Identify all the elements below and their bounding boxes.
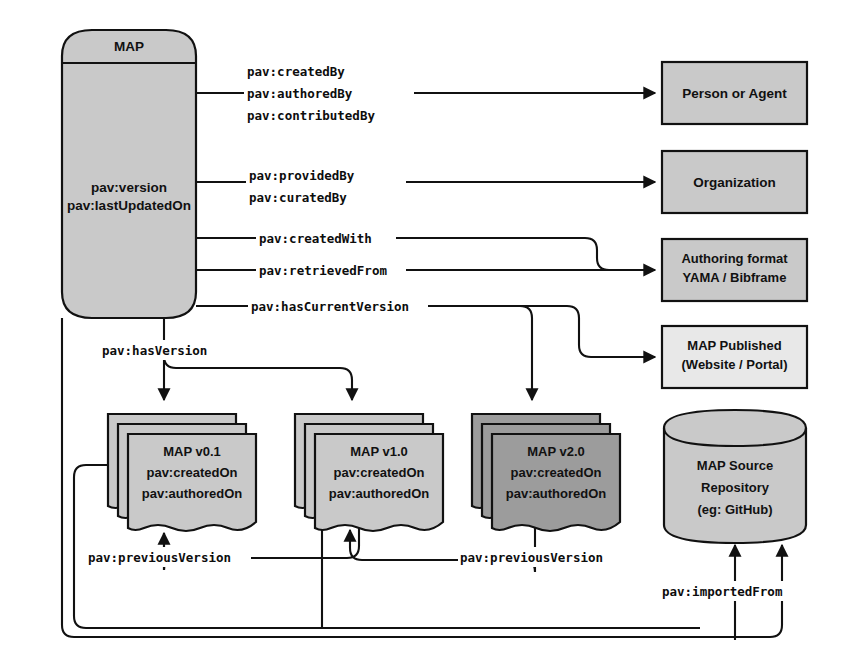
map-v0-1-line-3: pav:authoredOn (142, 486, 242, 501)
map-v0-1-line-1: MAP v0.1 (163, 444, 221, 459)
map-v1-0-line-3: pav:authoredOn (329, 486, 429, 501)
node-map-v2-0[interactable]: MAP v2.0 pav:createdOn pav:authoredOn (472, 414, 620, 531)
label-curated-by: pav:curatedBy (249, 190, 347, 205)
map-source-repository-shape (664, 410, 806, 543)
map-source-repository-line-2: Repository (701, 480, 770, 495)
label-provided-by: pav:providedBy (249, 168, 355, 183)
node-map-published[interactable]: MAP Published (Website / Portal) (662, 326, 807, 388)
label-previous-version-2: pav:previousVersion (460, 550, 603, 565)
map-node-shape (62, 30, 196, 318)
label-imported-from: pav:importedFrom (662, 584, 783, 599)
map-v2-0-line-1: MAP v2.0 (527, 444, 585, 459)
authoring-format-line-2: YAMA / Bibframe (683, 270, 787, 285)
map-node-line-2: pav:lastUpdatedOn (67, 198, 191, 213)
label-has-current-version: pav:hasCurrentVersion (251, 299, 409, 314)
node-person-or-agent[interactable]: Person or Agent (662, 62, 807, 124)
edge-has-version-branch-v1 (164, 356, 352, 400)
label-contributed-by: pav:contributedBy (247, 108, 375, 123)
node-map-v0-1[interactable]: MAP v0.1 pav:createdOn pav:authoredOn (108, 414, 256, 531)
map-published-line-1: MAP Published (687, 338, 781, 353)
authoring-format-line-1: Authoring format (681, 251, 788, 266)
label-created-with: pav:createdWith (259, 231, 372, 246)
label-has-version: pav:hasVersion (102, 343, 207, 358)
map-v2-0-line-2: pav:createdOn (510, 465, 601, 480)
map-published-line-2: (Website / Portal) (682, 357, 788, 372)
edge-has-current-version-to-v2 (430, 306, 532, 400)
node-map-source-repository[interactable]: MAP Source Repository (eg: GitHub) (664, 410, 806, 543)
map-v1-0-line-2: pav:createdOn (333, 465, 424, 480)
map-source-repository-line-1: MAP Source (697, 458, 773, 473)
label-created-by: pav:createdBy (247, 64, 345, 79)
organization-label: Organization (693, 175, 776, 190)
label-retrieved-from: pav:retrievedFrom (259, 263, 387, 278)
diagram-canvas: MAP pav:version pav:lastUpdatedOn Person… (0, 0, 845, 663)
node-map[interactable]: MAP pav:version pav:lastUpdatedOn (62, 30, 196, 318)
node-map-v1-0[interactable]: MAP v1.0 pav:createdOn pav:authoredOn (295, 414, 443, 531)
map-v1-0-line-1: MAP v1.0 (350, 444, 408, 459)
map-node-header-label: MAP (114, 39, 144, 54)
map-v0-1-line-2: pav:createdOn (146, 465, 237, 480)
node-organization[interactable]: Organization (662, 151, 807, 213)
label-previous-version-1: pav:previousVersion (88, 550, 231, 565)
map-node-line-1: pav:version (91, 180, 167, 195)
node-authoring-format[interactable]: Authoring format YAMA / Bibframe (662, 239, 807, 301)
person-or-agent-label: Person or Agent (682, 86, 787, 101)
map-v2-0-line-3: pav:authoredOn (506, 486, 606, 501)
map-source-repository-line-3: (eg: GitHub) (697, 502, 772, 517)
label-authored-by: pav:authoredBy (247, 86, 353, 101)
